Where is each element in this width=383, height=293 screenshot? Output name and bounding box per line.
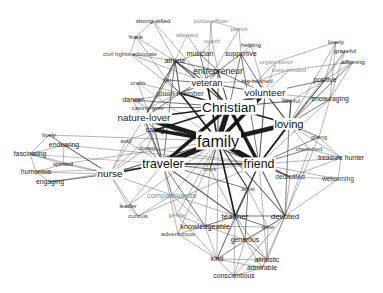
node-caring: caring bbox=[146, 126, 165, 134]
node-dedicated: dedicated bbox=[275, 173, 305, 180]
node-affirming: affirming bbox=[341, 58, 365, 65]
edge-family-teacher bbox=[218, 141, 235, 216]
node-label: veteran bbox=[191, 78, 222, 88]
node-label: conscientious bbox=[213, 272, 255, 279]
node-label: doctor bbox=[138, 144, 155, 151]
node-friend: friend bbox=[243, 157, 276, 171]
node-adventurous: adventurous bbox=[161, 230, 195, 237]
node-cherished: cherished bbox=[296, 145, 323, 152]
node-nature-lover: nature-lover bbox=[117, 112, 173, 123]
node-label: casino-goer bbox=[132, 104, 164, 111]
node-strong-willed: strong-willed bbox=[136, 17, 171, 24]
node-label: patriot bbox=[230, 25, 247, 32]
node-nurse: nurse bbox=[97, 168, 124, 179]
node-veteran: veteran bbox=[190, 78, 223, 88]
node-label: coach bbox=[204, 37, 221, 44]
node-label: musician bbox=[187, 50, 214, 57]
node-label: treasure hunter bbox=[318, 154, 365, 161]
node-label: compassionate bbox=[147, 191, 197, 200]
node-label: loving bbox=[274, 118, 303, 130]
node-compassionate: compassionate bbox=[147, 191, 197, 200]
node-helping: helping bbox=[241, 41, 262, 48]
node-crafts: crafts bbox=[130, 79, 145, 86]
node-label: union member bbox=[156, 89, 204, 98]
node-artist: artist bbox=[241, 185, 255, 192]
node-supportive: supportive bbox=[225, 50, 257, 58]
node-faithful: faithful bbox=[282, 97, 300, 104]
node-civic-minded: civic-minded bbox=[272, 66, 307, 73]
node-casino-goer: casino-goer bbox=[132, 104, 164, 111]
node-label: lovely bbox=[328, 38, 345, 45]
node-label: talented bbox=[176, 31, 199, 38]
node-label: caring bbox=[146, 126, 165, 134]
node-altruistic: altruistic bbox=[255, 256, 281, 263]
node-label: humorous bbox=[21, 168, 52, 175]
node-lively: lively bbox=[42, 131, 57, 138]
node-volunteer: volunteer bbox=[244, 87, 287, 98]
node-teacher: teacher bbox=[222, 212, 249, 221]
node-leader: leader bbox=[119, 202, 136, 209]
node-traveler: traveler bbox=[141, 157, 184, 171]
node-fascinating: fascinating bbox=[14, 150, 47, 158]
node-musician: musician bbox=[187, 50, 214, 57]
node-label: entrepreneur bbox=[193, 66, 243, 76]
node-frank: frank bbox=[129, 33, 144, 40]
node-label: dancer bbox=[123, 96, 145, 103]
node-coach: coach bbox=[204, 37, 221, 44]
node-graceful: graceful bbox=[334, 47, 356, 54]
node-humorous: humorous bbox=[21, 168, 52, 175]
node-label: Christian bbox=[202, 100, 256, 115]
node-label: faithful bbox=[282, 97, 300, 104]
node-giving: giving bbox=[311, 133, 328, 140]
node-label: crafts bbox=[130, 79, 145, 86]
node-label: fan bbox=[163, 76, 172, 83]
node-curious: curious bbox=[128, 212, 148, 219]
node-label: giving bbox=[311, 133, 328, 140]
node-label: strong-willed bbox=[136, 17, 171, 24]
node-encouraging: encouraging bbox=[311, 95, 349, 103]
node-label: graceful bbox=[334, 47, 356, 54]
node-label: civil rights advocate bbox=[103, 50, 158, 57]
node-athlete: athlete bbox=[165, 57, 186, 64]
edge-generous-conscientious bbox=[234, 240, 245, 276]
node-label: nurse bbox=[98, 168, 123, 179]
edge-conscientious-teacher bbox=[234, 216, 235, 276]
nodes-layer: strong-willedpolice officerfranktalented… bbox=[14, 17, 366, 279]
node-avid: avid bbox=[120, 137, 132, 144]
node-label: civic-minded bbox=[272, 66, 307, 73]
node-label: admirable bbox=[247, 264, 277, 271]
node-cook: cook bbox=[203, 165, 217, 172]
node-label: generous bbox=[231, 236, 260, 244]
node-label: volunteer bbox=[245, 87, 286, 98]
node-conscientious: conscientious bbox=[213, 272, 255, 279]
node-admirable: admirable bbox=[247, 264, 277, 271]
edge-cherished-devoted bbox=[285, 149, 309, 216]
edge-knowledgeable-kind bbox=[205, 226, 217, 259]
node-label: curious bbox=[128, 212, 148, 219]
edge-kind-family bbox=[217, 141, 218, 259]
node-fan: fan bbox=[163, 76, 172, 83]
node-big-hearted: big-hearted bbox=[241, 77, 273, 84]
node-label: spirited bbox=[53, 160, 74, 167]
node-label: artist bbox=[241, 185, 255, 192]
node-label: affirming bbox=[341, 58, 365, 65]
edge-frank-fan bbox=[136, 37, 167, 80]
node-label: nature-lover bbox=[118, 112, 172, 123]
node-label: frank bbox=[129, 33, 144, 40]
node-devoted: devoted bbox=[271, 212, 300, 221]
node-label: endearing bbox=[49, 141, 80, 149]
node-civil-rights-advocate: civil rights advocate bbox=[103, 50, 158, 57]
node-label: helping bbox=[241, 41, 262, 48]
node-label: gentle bbox=[169, 211, 186, 218]
node-wise: wise bbox=[261, 223, 275, 230]
edge-graceful-loving bbox=[289, 51, 345, 124]
node-label: athlete bbox=[165, 57, 186, 64]
node-label: leader bbox=[119, 202, 136, 209]
node-talented: talented bbox=[176, 31, 199, 38]
node-label: fascinating bbox=[14, 150, 47, 158]
node-welcoming: welcoming bbox=[321, 175, 354, 183]
network-diagram: strong-willedpolice officerfranktalented… bbox=[0, 0, 383, 293]
node-label: family bbox=[197, 132, 240, 150]
node-label: welcoming bbox=[321, 175, 354, 183]
node-label: cook bbox=[203, 165, 217, 172]
